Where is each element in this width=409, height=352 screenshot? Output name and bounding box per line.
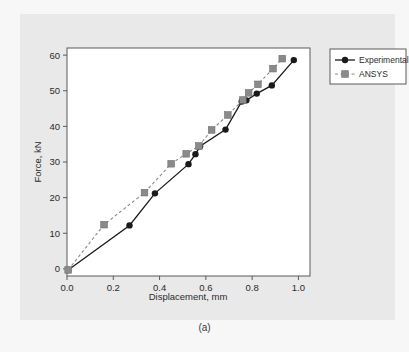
data-point-ansys (245, 90, 252, 97)
y-tick-label: 40 (49, 121, 60, 132)
x-tick-label: 1.0 (292, 282, 305, 293)
x-tick-label: 0.0 (60, 282, 73, 293)
data-point-experimental (269, 82, 275, 88)
data-point-experimental (254, 90, 260, 96)
y-tick-label: 20 (49, 192, 60, 203)
data-point-experimental (185, 161, 191, 167)
legend-marker-circle-icon (342, 57, 348, 63)
data-point-ansys (240, 97, 247, 104)
data-point-experimental (192, 151, 198, 157)
figure-caption: (a) (0, 322, 409, 333)
data-point-experimental (152, 190, 158, 196)
data-point-ansys (225, 112, 232, 119)
data-point-experimental (291, 57, 297, 63)
data-point-ansys (208, 127, 215, 134)
data-point-experimental (222, 126, 228, 132)
data-point-ansys (255, 81, 262, 88)
data-point-ansys (65, 267, 72, 274)
x-axis-title: Displacement, mm (149, 291, 228, 302)
data-point-ansys (279, 55, 286, 62)
y-axis-ticks: 0102030405060 (49, 50, 67, 275)
y-tick-label: 60 (49, 50, 60, 61)
figure-page: 0102030405060 0.00.20.40.60.81.0 Force, … (0, 0, 409, 352)
data-point-ansys (183, 151, 190, 158)
legend-label-experimental[interactable]: Experimental (359, 55, 409, 65)
data-point-ansys (270, 65, 277, 72)
y-tick-label: 0 (55, 263, 60, 274)
x-tick-label: 0.8 (246, 282, 259, 293)
y-tick-label: 30 (49, 156, 60, 167)
legend-marker-square-icon (342, 71, 349, 78)
data-point-ansys (101, 221, 108, 228)
legend-label-ansys[interactable]: ANSYS (359, 69, 388, 79)
data-point-ansys (141, 189, 148, 196)
data-point-experimental (126, 222, 132, 228)
force-displacement-chart: 0102030405060 0.00.20.40.60.81.0 Force, … (0, 0, 409, 352)
data-point-ansys (196, 143, 203, 150)
y-axis-title: Force, kN (32, 141, 43, 182)
y-tick-label: 50 (49, 85, 60, 96)
y-tick-label: 10 (49, 228, 60, 239)
x-tick-label: 0.2 (107, 282, 120, 293)
data-point-ansys (168, 160, 175, 167)
